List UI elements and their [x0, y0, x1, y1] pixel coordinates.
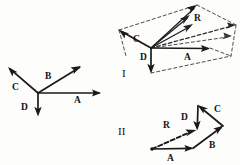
panel-two-vector-b-shaft	[193, 128, 221, 149]
panel-one-vector-a-label: A	[184, 52, 191, 62]
panel-one-vector-a-shaft	[151, 48, 208, 49]
vector-diagram-svg: A B C D	[0, 0, 240, 165]
panel-two-vector-r-label: R	[163, 120, 170, 130]
panel-two-vector-c-label: C	[214, 104, 221, 114]
vector-b-label: B	[45, 71, 52, 81]
panel-one-extra-rays	[151, 22, 236, 48]
panel-one-vector-c-label: C	[133, 34, 140, 44]
panel-one: R A C D I	[119, 5, 236, 79]
edge-bottom-right	[210, 48, 231, 56]
panel-left-vector-a: A	[38, 90, 101, 105]
panel-left-vector-d: D	[21, 93, 42, 117]
panel-two-vector-r: R	[152, 120, 197, 149]
panel-two-vector-b-label: B	[209, 140, 216, 150]
vector-d-label: D	[21, 102, 28, 112]
edge-top-right	[197, 5, 236, 25]
edge-front-bottom	[151, 56, 231, 73]
panel-one-vector-a: A	[151, 45, 210, 62]
panel-two-vector-c: C	[198, 104, 223, 126]
vector-a-label: A	[74, 95, 81, 105]
panel-left-vector-c: C	[8, 67, 38, 93]
vector-figure-canvas: A B C D	[0, 0, 240, 165]
panel-one-caption: I	[122, 67, 126, 79]
panel-two-caption: II	[118, 125, 126, 137]
panel-two-vector-b-arrowhead	[213, 126, 223, 135]
panel-two-vector-a-label: A	[167, 153, 174, 163]
edge-right-down	[231, 25, 236, 56]
vector-r-label: R	[194, 13, 201, 23]
panel-left: A B C D	[8, 66, 101, 117]
panel-left-vector-b: B	[38, 66, 81, 93]
panel-one-vector-c: C	[119, 30, 151, 48]
vector-c-label: C	[12, 82, 19, 92]
panel-two: A B C D	[118, 104, 224, 163]
panel-two-vector-d-label: D	[181, 112, 188, 122]
ray-right-dashed-2-arrowhead	[223, 33, 232, 40]
panel-one-vector-d-label: D	[140, 52, 147, 62]
ray-upper-2-arrowhead	[183, 24, 193, 32]
panel-one-vector-d: D	[140, 48, 155, 74]
panel-two-vector-d: D	[181, 106, 201, 131]
panel-two-vector-a-shaft	[152, 148, 191, 149]
panel-two-vector-a: A	[152, 145, 194, 163]
ray-right-dashed-arrowhead	[226, 22, 236, 28]
